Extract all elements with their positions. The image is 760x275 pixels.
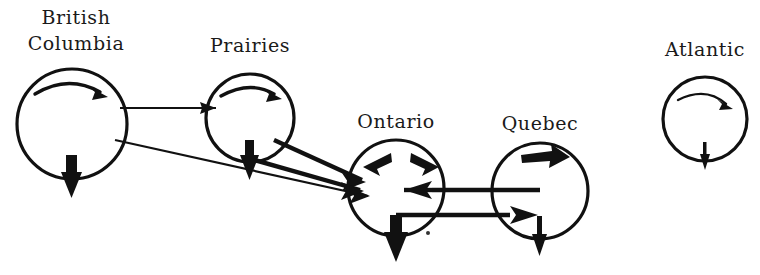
ontario-label: Ontario <box>357 110 435 132</box>
ontario-inflow-arrowhead-left <box>363 153 392 176</box>
quebec-out-arrow-head <box>532 234 547 256</box>
british-columbia-out-arrow-head <box>61 172 82 198</box>
scan-artifact-speck <box>426 231 430 235</box>
node-atlantic[interactable]: Atlantic <box>663 38 747 170</box>
migration-flow-diagram: British Columbia Prairies Ontario <box>0 0 760 275</box>
node-quebec[interactable]: Quebec <box>492 112 588 256</box>
prairies-label: Prairies <box>210 34 290 56</box>
atlantic-label: Atlantic <box>664 38 745 60</box>
quebec-label: Quebec <box>502 112 579 134</box>
node-ontario[interactable]: Ontario <box>348 110 444 262</box>
atlantic-spin-arrowhead <box>717 99 733 110</box>
british-columbia-spin-arc <box>35 83 100 94</box>
atlantic-spin-arc <box>678 94 726 104</box>
diagram-canvas: British Columbia Prairies Ontario <box>0 0 760 275</box>
flow-bc-to-prairies <box>120 102 216 114</box>
ontario-inflow-arrowhead-right <box>410 153 439 176</box>
flow-quebec-to-ontario <box>404 181 540 199</box>
british-columbia-label-line2: Columbia <box>28 32 125 54</box>
prairies-spin-arc <box>221 87 274 96</box>
node-prairies[interactable]: Prairies <box>206 34 294 180</box>
british-columbia-spin-arrowhead <box>88 86 108 100</box>
flow-ontario-to-quebec <box>396 206 538 224</box>
prairies-spin-arrowhead <box>262 88 282 102</box>
ontario-out-arrow-head <box>384 232 408 262</box>
flow-bc-to-ontario <box>115 140 370 204</box>
node-british-columbia[interactable]: British Columbia <box>17 6 127 198</box>
british-columbia-label-line1: British <box>41 6 110 28</box>
